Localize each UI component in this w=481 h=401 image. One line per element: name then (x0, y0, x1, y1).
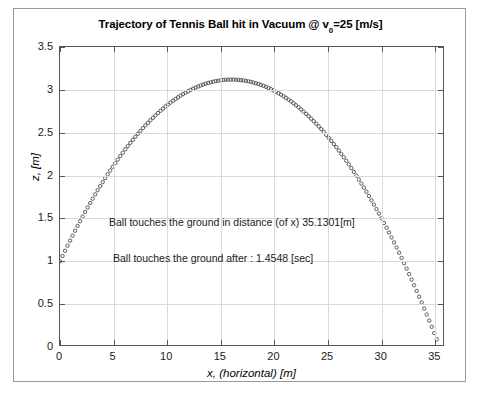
x-tick-label: 0 (56, 350, 62, 362)
y-tick-mark (60, 176, 65, 177)
x-tick-mark (60, 340, 61, 345)
y-tick-mark (60, 261, 65, 262)
y-tick-mark (438, 304, 443, 305)
y-tick-label: 3.5 (38, 40, 53, 52)
data-point-marker (390, 236, 393, 239)
data-point-marker (422, 307, 425, 310)
data-point-marker (73, 229, 76, 232)
data-point-marker (134, 135, 137, 138)
chart-title-main: Trajectory of Tennis Ball hit in Vacuum … (98, 18, 328, 30)
y-tick-mark (438, 176, 443, 177)
y-tick-mark (438, 261, 443, 262)
gridline-vertical (221, 47, 222, 345)
data-point-marker (385, 226, 388, 229)
data-point-marker (335, 146, 338, 149)
data-point-marker (131, 138, 134, 141)
data-point-marker (382, 221, 385, 224)
annotation-distance: Ball touches the ground in distance (of … (109, 216, 355, 228)
data-point-marker (377, 212, 380, 215)
plot-inner (60, 47, 443, 345)
data-point-marker (124, 148, 127, 151)
x-tick-label: 10 (160, 350, 172, 362)
chart-title-subscript: 0 (329, 26, 333, 35)
y-tick-mark (60, 47, 65, 48)
y-tick-label: 0.5 (38, 297, 53, 309)
x-tick-label: 35 (428, 350, 440, 362)
data-point-marker (415, 289, 418, 292)
data-point-marker (119, 154, 122, 157)
data-point-marker (126, 144, 129, 147)
gridline-horizontal (60, 304, 443, 305)
data-point-marker (407, 272, 410, 275)
x-tick-mark (167, 340, 168, 345)
data-point-marker (405, 267, 408, 270)
x-tick-mark (328, 47, 329, 52)
x-tick-mark (114, 340, 115, 345)
data-point-marker (330, 139, 333, 142)
x-tick-mark (435, 340, 436, 345)
data-point-marker (387, 231, 390, 234)
y-tick-label: 0 (47, 340, 53, 352)
data-point-marker (129, 141, 132, 144)
data-point-marker (345, 159, 348, 162)
x-tick-label: 20 (267, 350, 279, 362)
y-tick-mark (438, 218, 443, 219)
data-point-marker (66, 244, 69, 247)
gridline-horizontal (60, 90, 443, 91)
annotation-time: Ball touches the ground after : 1.4548 [… (113, 252, 313, 264)
x-tick-mark (114, 47, 115, 52)
x-tick-mark (382, 47, 383, 52)
data-point-marker (63, 249, 66, 252)
figure-frame: Trajectory of Tennis Ball hit in Vacuum … (13, 8, 466, 382)
y-tick-mark (60, 218, 65, 219)
data-point-marker (109, 169, 112, 172)
data-point-marker (342, 156, 345, 159)
x-tick-mark (328, 340, 329, 345)
x-tick-mark (167, 47, 168, 52)
x-tick-label: 5 (110, 350, 116, 362)
data-point-marker (121, 151, 124, 154)
data-point-marker (332, 142, 335, 145)
data-point-marker (428, 319, 431, 322)
data-point-marker (392, 241, 395, 244)
data-point-marker (425, 313, 428, 316)
data-point-marker (88, 201, 91, 204)
x-tick-label: 30 (375, 350, 387, 362)
gridline-vertical (328, 47, 329, 345)
y-tick-mark (60, 133, 65, 134)
x-axis-label: x, (horizontal) [m] (59, 367, 444, 379)
data-point-marker (372, 203, 375, 206)
gridline-vertical (382, 47, 383, 345)
data-point-marker (347, 163, 350, 166)
page-title: Trajectory of Tennis Ball hit in Vacuum … (14, 18, 467, 33)
x-tick-mark (274, 340, 275, 345)
y-tick-mark (60, 90, 65, 91)
gridline-vertical (435, 47, 436, 345)
data-point-marker (375, 207, 378, 210)
data-point-marker (410, 278, 413, 281)
gridline-vertical (274, 47, 275, 345)
data-point-marker (430, 325, 433, 328)
data-point-marker (412, 284, 415, 287)
data-point-marker (116, 158, 119, 161)
plot-axes-area (59, 46, 444, 346)
data-point-marker (417, 295, 420, 298)
data-point-marker (68, 239, 71, 242)
y-tick-label: 1.5 (38, 211, 53, 223)
chart-title-suffix: =25 [m/s] (333, 18, 382, 30)
gridline-vertical (114, 47, 115, 345)
data-point-marker (96, 189, 99, 192)
data-point-marker (360, 182, 363, 185)
x-tick-label: 25 (321, 350, 333, 362)
data-point-marker (340, 152, 343, 155)
gridline-horizontal (60, 133, 443, 134)
x-tick-mark (221, 47, 222, 52)
gridline-vertical (167, 47, 168, 345)
gridline-horizontal (60, 176, 443, 177)
trajectory-series (60, 47, 443, 345)
x-tick-mark (435, 47, 436, 52)
data-point-marker (352, 170, 355, 173)
data-point-marker (367, 194, 370, 197)
data-point-marker (91, 197, 94, 200)
data-point-marker (83, 210, 86, 213)
